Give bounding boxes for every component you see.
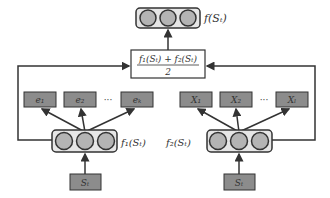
left-output-ek: eₖ xyxy=(133,95,142,105)
right-network xyxy=(207,130,272,152)
ensemble-diagram: f(Sₜ) f₁(Sₜ) + f₂(Sₜ) 2 e₁ e₂ ··· eₖ f₁(… xyxy=(0,0,330,198)
left-output-e2: e₂ xyxy=(76,95,85,105)
left-network-label: f₁(Sₜ) xyxy=(120,137,146,148)
right-ellipsis: ··· xyxy=(260,95,269,105)
output-node xyxy=(136,8,200,28)
left-network xyxy=(52,130,117,152)
average-numerator: f₁(Sₜ) + f₂(Sₜ) xyxy=(138,54,197,64)
output-label: f(Sₜ) xyxy=(203,12,227,25)
left-input-label: Sₜ xyxy=(81,178,90,188)
average-denominator: 2 xyxy=(164,67,171,77)
right-input-label: Sₜ xyxy=(235,178,244,188)
right-network-label: f₂(Sₜ) xyxy=(165,137,191,148)
right-output-xl: Xₗ xyxy=(287,95,297,105)
left-ellipsis: ··· xyxy=(104,95,113,105)
right-output-x1: X₁ xyxy=(190,95,201,105)
right-output-x2: X₂ xyxy=(230,95,241,105)
left-output-e1: e₁ xyxy=(36,95,45,105)
